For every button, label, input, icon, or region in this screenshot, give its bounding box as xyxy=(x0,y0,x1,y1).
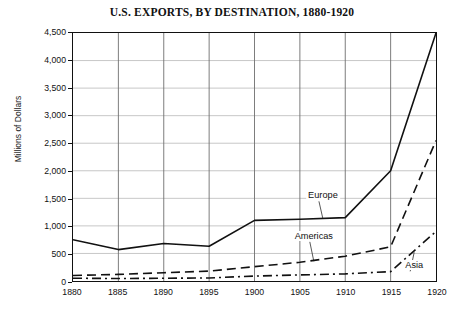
series-label-europe: Europe xyxy=(306,190,340,200)
chart-container: U.S. EXPORTS, BY DESTINATION, 1880-1920 … xyxy=(0,0,464,314)
series-label-asia: Asia xyxy=(403,260,425,270)
series-label-americas: Americas xyxy=(293,231,335,241)
leader-lines xyxy=(0,0,464,314)
